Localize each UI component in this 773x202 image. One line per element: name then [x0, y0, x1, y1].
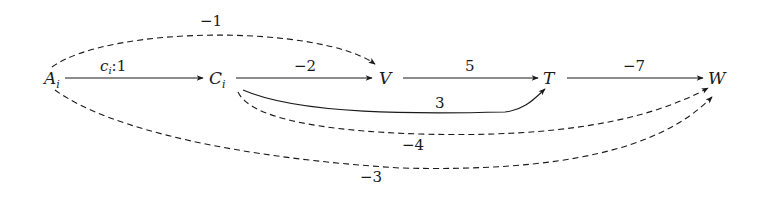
label-a-v: −1: [200, 12, 222, 30]
label-c-v: −2: [294, 57, 316, 75]
label-v-t: 5: [465, 57, 475, 75]
node-w: W: [708, 68, 727, 88]
node-c: Ci: [209, 68, 226, 91]
graph-diagram: Ai Ci V T W ci:1 −2 5 −7 −1 3 −4 −3: [0, 0, 773, 202]
edge-a-w: [55, 90, 712, 168]
edge-c-w: [238, 88, 708, 135]
node-a: Ai: [42, 68, 60, 91]
label-a-c: ci:1: [100, 57, 126, 76]
node-v: V: [379, 68, 393, 88]
label-a-w: −3: [360, 168, 382, 186]
edge-c-t: [243, 89, 545, 113]
node-t: T: [543, 68, 556, 88]
label-t-w: −7: [623, 57, 645, 75]
label-c-w: −4: [402, 136, 424, 154]
edges: [52, 35, 712, 168]
label-c-t: 3: [435, 94, 445, 112]
